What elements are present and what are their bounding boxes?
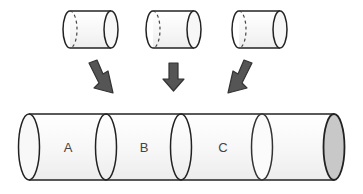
segment-label-c: C bbox=[218, 140, 227, 155]
segment-label-a: A bbox=[64, 140, 73, 155]
piece-1 bbox=[63, 11, 118, 48]
assembled-tube: A B C bbox=[19, 114, 345, 180]
arrow-down-right-icon bbox=[89, 60, 113, 93]
piece-3 bbox=[232, 11, 287, 48]
arrow-down-icon bbox=[163, 63, 184, 91]
tube-right-end-cap bbox=[324, 114, 345, 180]
assembly-diagram: A B C bbox=[0, 0, 363, 194]
segment-label-b: B bbox=[140, 140, 149, 155]
arrow-down-left-icon bbox=[228, 60, 252, 93]
piece-2 bbox=[146, 11, 201, 48]
tube-left-end bbox=[19, 114, 40, 180]
joint-c-end bbox=[252, 114, 273, 180]
